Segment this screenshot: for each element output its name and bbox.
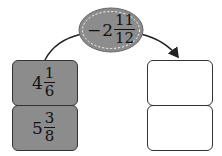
denominator: 6: [44, 84, 56, 99]
operator-numerator: 11: [114, 13, 135, 28]
operator-value: − 2 11 12: [87, 13, 135, 46]
fraction: 1 6: [44, 66, 56, 99]
whole-part: 4: [32, 73, 43, 93]
answer-box-1[interactable]: [147, 60, 213, 106]
minus-sign: −: [87, 20, 101, 40]
left-value-2: 5 3 8: [32, 111, 55, 144]
left-value-1: 4 1 6: [32, 66, 55, 99]
answer-box-2[interactable]: [147, 105, 213, 151]
operator-whole: 2: [102, 20, 113, 40]
fraction: 3 8: [44, 111, 56, 144]
numerator: 3: [44, 111, 56, 126]
numerator: 1: [44, 66, 56, 81]
arc-left: [45, 34, 82, 60]
operator-fraction: 11 12: [114, 13, 135, 46]
denominator: 8: [44, 129, 56, 144]
arc-right-arrow: [141, 34, 178, 57]
operator-denominator: 12: [114, 31, 135, 46]
whole-part: 5: [32, 118, 43, 138]
